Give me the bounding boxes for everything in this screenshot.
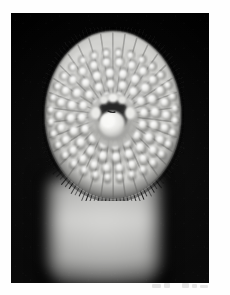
tooth-cusp (164, 82, 170, 89)
tooth-cusp (150, 159, 156, 166)
tooth-cusp (149, 146, 157, 154)
tooth-cusp (151, 107, 160, 116)
tooth-cusp (172, 105, 178, 112)
tooth-cusp (48, 106, 54, 113)
tooth-cusp (128, 160, 136, 168)
ghost-mark (164, 283, 170, 288)
ghost-mark (192, 284, 197, 288)
oral-disc (42, 27, 184, 201)
tooth-cusp (139, 154, 147, 162)
tooth-cusp (99, 151, 108, 160)
tooth-cusp (50, 94, 56, 101)
tooth-cusp (81, 167, 87, 174)
tooth-cusp (77, 137, 86, 146)
tooth-cusp (62, 152, 68, 159)
oral-disc-drawing (42, 27, 184, 201)
tooth-cusp (149, 76, 157, 84)
tooth-cusp (158, 150, 164, 157)
tooth-cusp (70, 146, 78, 154)
tooth-cusp (161, 98, 169, 106)
tooth-cusp (112, 152, 121, 161)
tooth-cusp (140, 166, 146, 173)
tooth-cusp (87, 146, 96, 155)
ghost-mark (182, 283, 189, 288)
tooth-cusp (58, 124, 66, 132)
tooth-cusp (71, 160, 77, 167)
tooth-cusp (48, 118, 54, 125)
tooth-cusp (70, 126, 79, 135)
tooth-cusp (116, 163, 124, 171)
tooth-cusp (149, 63, 155, 70)
tooth-cusp (149, 120, 158, 129)
tooth-cusp (169, 129, 175, 136)
tooth-cusp (79, 155, 87, 163)
tooth-cusp (165, 140, 171, 147)
tooth-cusp (117, 173, 123, 180)
tooth-cusp (51, 130, 57, 137)
tooth-cusp (161, 123, 169, 131)
disc-specular (58, 45, 150, 129)
tooth-cusp (157, 72, 163, 79)
tooth-cusp (56, 141, 62, 148)
tooth-cusp (156, 86, 164, 94)
tooth-cusp (144, 132, 153, 141)
tooth-cusp (138, 120, 146, 129)
tooth-cusp (56, 111, 64, 119)
tooth-cusp (136, 142, 145, 151)
ghost-mark (152, 284, 161, 288)
ghost-mark (200, 285, 208, 288)
tooth-cusp (172, 117, 178, 124)
tooth-cusp (125, 149, 134, 158)
tooth-cusp (156, 135, 164, 143)
tooth-cusp (169, 93, 175, 100)
photograph-plate (11, 13, 209, 283)
ghost-marks (150, 281, 220, 293)
tooth-cusp (62, 136, 70, 144)
tooth-cusp (103, 163, 111, 171)
tooth-cusp (93, 171, 99, 178)
tooth-cusp (162, 111, 170, 119)
page-canvas: Black and white macro photograph of a la… (0, 0, 230, 295)
tooth-cusp (129, 171, 135, 178)
tooth-cusp (105, 173, 111, 180)
tooth-cusp (90, 160, 98, 168)
